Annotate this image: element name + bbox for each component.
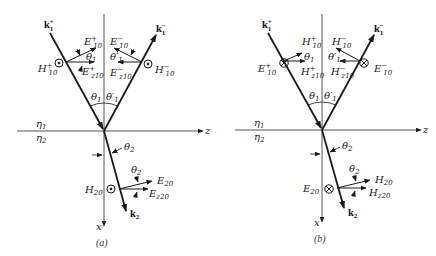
theta2-pointer-right	[112, 148, 122, 153]
theta2-pointer-right	[330, 147, 340, 152]
angle-pointer	[135, 192, 137, 198]
theta1-prime-small-label: θ′1	[328, 51, 341, 64]
dot-center	[110, 188, 113, 191]
theta2-label: θ2	[342, 140, 353, 153]
theta1-prime-small-label: θ′1	[110, 51, 123, 64]
caption-a: (a)	[96, 237, 108, 249]
Ez10-plus-label: E+z10	[81, 65, 104, 80]
theta2-label: θ2	[124, 141, 135, 154]
k2-label: k2	[130, 208, 140, 221]
E10-minus-label: E−10	[109, 35, 129, 50]
Ez10-minus-label: E−z10	[109, 66, 132, 81]
Hz20-label: Hz20	[368, 187, 391, 200]
H20-label: H20	[84, 184, 103, 197]
eta1-label: η1	[254, 117, 264, 130]
theta2-small-label: θ2	[131, 164, 142, 177]
theta1-label: θ1	[91, 91, 102, 104]
k2-label: k2	[348, 207, 358, 220]
caption-b: (b)	[314, 233, 326, 245]
E10-minus-label: E−10	[373, 62, 393, 77]
reflected-ray	[104, 35, 156, 131]
reflection-refraction-diagram: z x η1 η2 k+1 k−1 k2 E+10 E+z10 θ1 H+10 …	[0, 0, 436, 256]
angle-pointer	[77, 49, 80, 55]
theta2-small-label: θ2	[349, 163, 360, 176]
theta1-prime-label: θ′1	[106, 91, 119, 104]
Hz10-plus-label: H+z10	[300, 65, 325, 80]
dot-center	[58, 62, 61, 65]
Ez20-label: Ez20	[148, 188, 169, 201]
z-axis-label: z	[204, 125, 211, 136]
z-axis-label: z	[422, 124, 429, 135]
E10-plus-label: E+10	[257, 62, 277, 77]
tr-field-vector	[119, 181, 152, 189]
tr-field-vector	[337, 180, 370, 188]
panel-a: z x η1 η2 k+1 k−1 k2 E+10 E+z10 θ1 H+10 …	[17, 14, 211, 249]
E20-label: E20	[156, 175, 174, 188]
dot-center	[147, 63, 150, 66]
H10-plus-label: H+10	[301, 35, 322, 50]
theta1-small-label: θ1	[304, 51, 315, 64]
H10-minus-label: H−10	[331, 35, 352, 50]
transmitted-ray	[322, 130, 344, 208]
Hz10-minus-label: H−z10	[330, 65, 355, 80]
k1-plus-label: k+1	[44, 18, 54, 33]
x-axis-label: x	[314, 217, 320, 228]
H20-label: H20	[374, 174, 393, 187]
into-page-cross-icon	[360, 59, 368, 67]
k1-plus-label: k+1	[262, 18, 272, 33]
eta2-label: η2	[254, 131, 265, 144]
eta1-label: η1	[36, 118, 46, 131]
k1-minus-label: k−1	[156, 22, 166, 37]
into-page-cross-icon	[325, 185, 333, 193]
panel-b: z x η1 η2 k+1 k−1 k2 H+10 H+z10 θ1 E+10 …	[235, 14, 429, 245]
x-axis-label: x	[96, 221, 102, 232]
theta1-prime-label: θ′1	[324, 90, 337, 103]
eta2-label: η2	[36, 132, 47, 145]
H10-minus-label: H−10	[154, 63, 175, 78]
theta1-label: θ1	[309, 90, 320, 103]
E10-plus-label: E+10	[83, 35, 103, 50]
E20-label: E20	[302, 183, 320, 196]
k1-minus-label: k−1	[374, 22, 384, 37]
transmitted-ray	[104, 131, 126, 211]
angle-pointer	[131, 49, 134, 55]
angle-pointer	[353, 191, 355, 197]
